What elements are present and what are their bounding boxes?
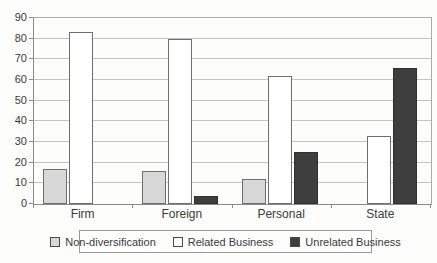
bar-non-diversification-personal xyxy=(242,179,266,204)
y-tick-label: 90 xyxy=(0,10,27,24)
bar-unrelated-business-personal xyxy=(294,152,318,204)
x-category-label-state: State xyxy=(331,207,430,222)
y-tick-mark xyxy=(29,17,33,18)
bar-related-business-foreign xyxy=(168,39,192,204)
y-tick-label: 30 xyxy=(0,134,27,148)
legend-label: Non-diversification xyxy=(65,236,155,248)
plot-area xyxy=(33,17,432,205)
y-tick-label: 70 xyxy=(0,51,27,65)
bar-related-business-firm xyxy=(69,32,93,204)
legend-label: Unrelated Business xyxy=(305,236,400,248)
bar-unrelated-business-state xyxy=(393,68,417,204)
y-tick-mark xyxy=(29,100,33,101)
bar-related-business-state xyxy=(367,136,391,204)
y-tick-mark xyxy=(29,58,33,59)
legend-swatch-icon xyxy=(173,237,183,247)
bar-chart-figure: 9080706050403020100 FirmForeignPersonalS… xyxy=(0,0,437,263)
legend-swatch-icon xyxy=(290,237,300,247)
y-tick-mark xyxy=(29,38,33,39)
gridline xyxy=(34,100,431,101)
legend-swatch-icon xyxy=(50,237,60,247)
y-tick-label: 80 xyxy=(0,31,27,45)
legend-item-non-diversification: Non-diversification xyxy=(50,236,155,248)
bar-non-diversification-firm xyxy=(43,169,67,204)
x-tick-mark xyxy=(430,204,431,208)
legend-item-unrelated-business: Unrelated Business xyxy=(290,236,400,248)
legend-label: Related Business xyxy=(188,236,274,248)
y-tick-label: 40 xyxy=(0,113,27,127)
x-category-label-firm: Firm xyxy=(33,207,132,222)
y-tick-label: 50 xyxy=(0,93,27,107)
bar-related-business-personal xyxy=(268,76,292,204)
bar-unrelated-business-foreign xyxy=(194,196,218,204)
y-tick-mark xyxy=(29,141,33,142)
x-category-label-foreign: Foreign xyxy=(132,207,231,222)
y-tick-label: 10 xyxy=(0,175,27,189)
y-tick-mark xyxy=(29,162,33,163)
gridline xyxy=(34,120,431,121)
y-tick-mark xyxy=(29,79,33,80)
y-tick-mark xyxy=(29,120,33,121)
gridline xyxy=(34,79,431,80)
x-category-label-personal: Personal xyxy=(232,207,331,222)
gridline xyxy=(34,38,431,39)
y-tick-label: 20 xyxy=(0,155,27,169)
y-tick-label: 0 xyxy=(0,196,27,210)
y-tick-mark xyxy=(29,182,33,183)
gridline xyxy=(34,58,431,59)
legend: Non-diversificationRelated BusinessUnrel… xyxy=(79,230,372,253)
legend-item-related-business: Related Business xyxy=(173,236,274,248)
y-tick-label: 60 xyxy=(0,72,27,86)
bar-non-diversification-foreign xyxy=(142,171,166,204)
